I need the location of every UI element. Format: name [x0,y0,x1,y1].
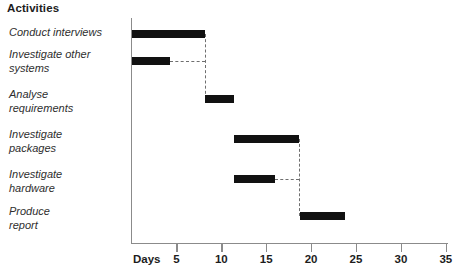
x-axis-tick-label: 20 [305,253,318,265]
x-axis-tick-label: 25 [350,253,363,265]
gantt-bar[interactable] [205,95,234,103]
gantt-bar[interactable] [234,175,275,183]
x-axis-tick-label: 5 [173,253,179,265]
x-axis-tick-label: 35 [439,253,452,265]
x-axis-tick [221,244,222,252]
gantt-bar[interactable] [132,57,171,65]
gantt-bar[interactable] [300,212,345,220]
x-axis-tick [311,244,312,252]
gantt-bar[interactable] [132,30,206,38]
gantt-bar[interactable] [234,135,299,143]
x-axis-tick [266,244,267,252]
x-axis-title: Days [133,253,161,265]
dependency-link-horizontal [170,61,205,62]
x-axis-tick [401,244,402,252]
dependency-link-horizontal [275,179,298,180]
x-axis-tick [446,244,447,252]
x-axis-tick [176,244,177,252]
y-axis-line [131,18,132,244]
x-axis-tick-label: 10 [215,253,228,265]
plot-area: 5101520253035 Days [0,0,461,280]
dependency-link-vertical [299,139,300,216]
gantt-chart: Activities Conduct interviewsInvestigate… [0,0,461,280]
dependency-link-vertical [205,34,206,99]
x-axis-tick [356,244,357,252]
x-axis-tick-label: 30 [394,253,407,265]
x-axis-tick-label: 15 [260,253,273,265]
